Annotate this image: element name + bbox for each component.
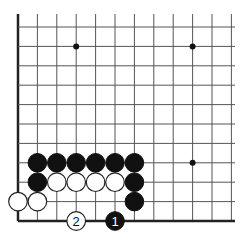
white-stone (9, 192, 28, 211)
black-stone (86, 154, 105, 173)
white-stone (48, 173, 67, 192)
black-stone (28, 173, 47, 192)
go-board: 12 (0, 0, 248, 244)
star-point-icon (190, 43, 196, 49)
board-grid (18, 14, 235, 221)
black-stone (48, 154, 67, 173)
black-stone (125, 192, 144, 211)
black-stone (125, 154, 144, 173)
move-number-label: 1 (111, 214, 118, 229)
move-1: 1 (106, 212, 125, 231)
star-point-icon (73, 43, 79, 49)
white-stone (28, 192, 47, 211)
black-stone (28, 154, 47, 173)
white-stone (67, 173, 86, 192)
white-stone (106, 173, 125, 192)
black-stone (67, 154, 86, 173)
move-number-label: 2 (73, 214, 80, 229)
black-stone (125, 173, 144, 192)
star-point-icon (190, 160, 196, 166)
black-stone (106, 154, 125, 173)
white-stone (86, 173, 105, 192)
move-2: 2 (67, 212, 86, 231)
